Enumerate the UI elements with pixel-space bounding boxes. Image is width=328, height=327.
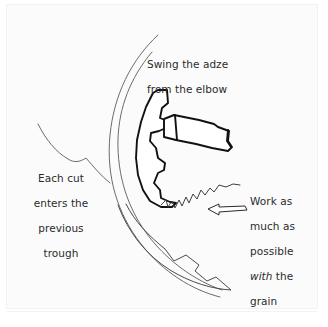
grain-line-4-rest: the: [272, 270, 293, 282]
each-cut-line-2: enters the: [18, 197, 104, 210]
grain-line-4: with the: [250, 270, 322, 283]
grain-line-4-italic-word: with: [250, 270, 272, 282]
swing-callout-line-2: from the elbow: [147, 83, 228, 96]
grain-direction-arrow: [208, 204, 247, 215]
each-cut-line-1: Each cut: [18, 172, 104, 185]
grain-line-3: possible: [250, 245, 322, 258]
left-pointing-grain-direction-arrow: [208, 204, 247, 215]
curved-swing-arrow: [118, 204, 231, 290]
each-cut-callout: Each cut enters the previous trough: [18, 159, 104, 272]
swing-arrow-outline: [118, 204, 231, 290]
grain-line-1: Work as: [250, 195, 322, 208]
each-cut-line-3: previous: [18, 222, 104, 235]
work-with-grain-callout: Work as much as possible with the grain: [250, 182, 322, 321]
swing-the-adze-callout: Swing the adze from the elbow: [147, 45, 228, 108]
illustration-figure: Swing the adze from the elbow Each cut e…: [0, 0, 328, 327]
grain-line-2: much as: [250, 220, 322, 233]
grain-line-5: grain: [250, 295, 322, 308]
swing-callout-line-1: Swing the adze: [147, 58, 228, 71]
each-cut-line-4: trough: [18, 247, 104, 260]
adze-handle: [164, 115, 232, 151]
